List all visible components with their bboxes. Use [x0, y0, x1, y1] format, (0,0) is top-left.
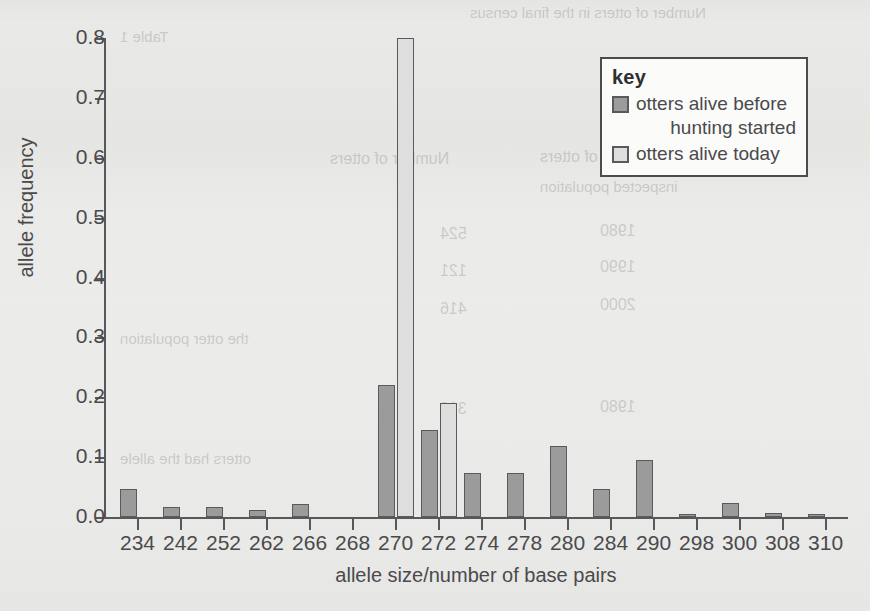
y-tick-label: 0.5 — [47, 205, 105, 229]
bar — [808, 514, 825, 517]
legend-items: otters alive beforehunting startedotters… — [612, 92, 796, 166]
legend-swatch — [612, 146, 629, 163]
bar — [593, 489, 610, 517]
x-axis-title: allele size/number of base pairs — [104, 564, 848, 587]
bar — [163, 507, 180, 517]
y-tick-label: 0.2 — [47, 384, 105, 408]
x-tick-mark — [610, 519, 612, 530]
chart-page: Number of otters in the final censusTabl… — [0, 0, 870, 611]
x-tick-label: 310 — [796, 531, 856, 555]
bar — [636, 460, 653, 517]
y-tick-label: 0.6 — [47, 145, 105, 169]
bar — [550, 446, 567, 517]
y-tick-label: 0.3 — [47, 324, 105, 348]
x-tick-mark — [180, 519, 182, 530]
x-tick-mark — [782, 519, 784, 530]
legend-label: otters alive today — [636, 142, 780, 166]
bar — [679, 514, 696, 517]
y-tick-label: 0.1 — [47, 444, 105, 468]
bar — [292, 504, 309, 517]
bar — [464, 473, 481, 517]
y-tick-label: 0.0 — [47, 504, 105, 528]
y-axis-title: allele frequency — [15, 98, 38, 318]
legend-item: otters alive beforehunting started — [612, 92, 796, 140]
x-tick-mark — [825, 519, 827, 530]
x-tick-mark — [438, 519, 440, 530]
x-tick-mark — [524, 519, 526, 530]
legend-title: key — [612, 66, 796, 89]
bar — [722, 503, 739, 517]
x-tick-mark — [696, 519, 698, 530]
x-tick-mark — [266, 519, 268, 530]
bar — [440, 403, 457, 517]
bar — [397, 38, 414, 517]
x-tick-mark — [137, 519, 139, 530]
legend-label: otters alive beforehunting started — [636, 92, 796, 140]
y-tick-label: 0.4 — [47, 265, 105, 289]
bar — [507, 473, 524, 517]
x-tick-mark — [739, 519, 741, 530]
legend-swatch — [612, 96, 629, 113]
x-tick-mark — [223, 519, 225, 530]
y-tick-label: 0.7 — [47, 85, 105, 109]
bar — [421, 430, 438, 517]
x-tick-mark — [653, 519, 655, 530]
legend-item: otters alive today — [612, 142, 796, 166]
bar — [206, 507, 223, 517]
y-tick-label: 0.8 — [47, 25, 105, 49]
legend-label-line2: hunting started — [636, 116, 796, 140]
bar — [765, 513, 782, 517]
x-tick-mark — [309, 519, 311, 530]
bar — [378, 385, 395, 517]
bar — [249, 510, 266, 517]
legend-box: key otters alive beforehunting startedot… — [600, 57, 808, 177]
x-tick-mark — [352, 519, 354, 530]
x-axis-line — [104, 517, 848, 519]
bar — [120, 489, 137, 517]
x-tick-mark — [395, 519, 397, 530]
bar-chart-plot: 0.00.10.20.30.40.50.60.70.8 allele frequ… — [0, 0, 870, 611]
x-tick-mark — [567, 519, 569, 530]
x-tick-mark — [481, 519, 483, 530]
